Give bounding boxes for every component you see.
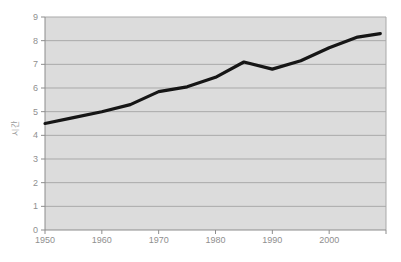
x-tick-label: 1970 <box>142 235 176 246</box>
y-tick-label: 4 <box>14 130 38 141</box>
y-tick-label: 1 <box>14 201 38 212</box>
x-tick-label: 1960 <box>85 235 119 246</box>
plot-area <box>0 0 401 262</box>
y-tick-label: 3 <box>14 154 38 165</box>
line-chart: 시간 0123456789195019601970198019902000 <box>0 0 401 262</box>
y-tick-label: 7 <box>14 59 38 70</box>
x-tick-label: 1950 <box>28 235 62 246</box>
y-tick-label: 2 <box>14 178 38 189</box>
x-tick-label: 1990 <box>255 235 289 246</box>
y-tick-label: 5 <box>14 107 38 118</box>
plot-background <box>45 17 386 230</box>
x-tick-label: 1980 <box>199 235 233 246</box>
y-tick-label: 6 <box>14 83 38 94</box>
y-tick-label: 9 <box>14 12 38 23</box>
x-tick-label: 2000 <box>312 235 346 246</box>
y-tick-label: 8 <box>14 36 38 47</box>
